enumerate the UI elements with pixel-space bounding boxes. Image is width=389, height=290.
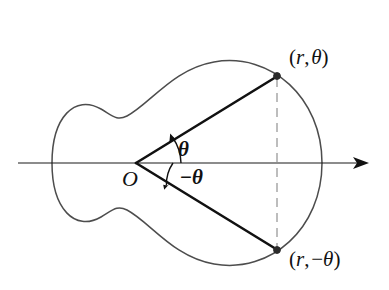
label-point-upper-r: r — [296, 45, 304, 69]
label-point-lower-minus: − — [311, 247, 323, 271]
label-point-lower-comma: , — [304, 247, 309, 271]
label-point-upper-open-paren: ( — [289, 45, 296, 69]
ray-to-upper-point — [136, 77, 276, 163]
point-dot-upper — [274, 73, 281, 80]
label-point-upper-theta: θ — [311, 45, 321, 69]
label-point-lower-theta: θ — [323, 247, 333, 271]
label-angle-negative-theta: θ — [192, 165, 203, 189]
label-angle-negative: −θ — [180, 167, 203, 188]
label-point-upper-comma: , — [304, 45, 309, 69]
label-point-lower-r: r — [296, 247, 304, 271]
ray-to-lower-point — [136, 163, 276, 249]
label-point-lower: (r, −θ) — [289, 249, 340, 270]
label-origin: O — [122, 168, 138, 190]
label-point-lower-open-paren: ( — [289, 247, 296, 271]
label-point-upper-close-paren: ) — [322, 45, 329, 69]
label-point-lower-close-paren: ) — [333, 247, 340, 271]
label-angle-negative-minus: − — [180, 165, 192, 189]
polar-symmetry-figure: (r, θ) (r, −θ) θ −θ O — [0, 0, 389, 290]
label-point-upper: (r, θ) — [289, 47, 329, 68]
label-angle-positive: θ — [178, 139, 189, 160]
point-dot-lower — [274, 247, 281, 254]
